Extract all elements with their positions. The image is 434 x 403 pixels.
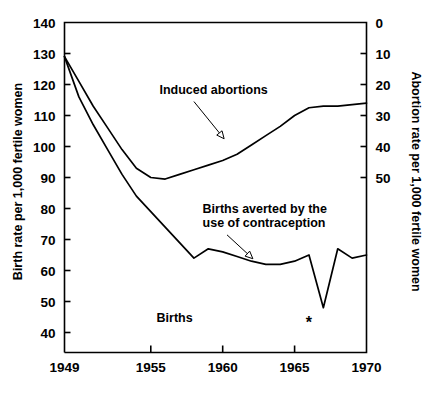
left-tick-label: 130 <box>33 47 56 62</box>
left-tick-label: 70 <box>40 233 55 248</box>
left-axis-title: Birth rate per 1,000 fertile women <box>11 83 25 280</box>
left-tick-label: 120 <box>33 78 56 93</box>
left-tick-label: 100 <box>33 140 56 155</box>
right-tick-label: 10 <box>376 47 391 62</box>
x-tick-label: 1949 <box>49 360 79 375</box>
left-tick-label: 50 <box>40 295 55 310</box>
right-tick-label: 20 <box>376 78 391 93</box>
annotation-births-averted-line1: Births averted by the <box>203 202 327 216</box>
right-tick-label: 50 <box>376 171 391 186</box>
right-tick-label: 40 <box>376 140 391 155</box>
right-tick-label: 30 <box>376 109 391 124</box>
left-tick-label: 40 <box>40 326 55 341</box>
annotation-births-averted-line2: use of contraception <box>203 216 326 230</box>
right-tick-label: 0 <box>376 16 384 31</box>
left-tick-label: 140 <box>33 16 56 31</box>
x-tick-label: 1955 <box>136 360 167 375</box>
chart-figure: 140130120110100908070605040 01020304050 … <box>0 0 434 403</box>
annotation-induced-abortions: Induced abortions <box>159 83 267 97</box>
left-tick-label: 110 <box>34 109 56 124</box>
x-tick-label: 1965 <box>280 360 311 375</box>
left-tick-label: 80 <box>40 202 55 217</box>
right-axis-title: Abortion rate per 1,000 fertile women <box>409 71 423 291</box>
birth-abortion-rate-line-chart: 140130120110100908070605040 01020304050 … <box>0 0 434 403</box>
x-tick-label: 1960 <box>208 360 238 375</box>
left-tick-label: 90 <box>40 171 55 186</box>
annotation-births: Births <box>157 311 193 325</box>
footnote-asterisk-marker: * <box>306 314 313 331</box>
left-tick-label: 60 <box>40 264 55 279</box>
x-tick-label: 1970 <box>351 360 381 375</box>
